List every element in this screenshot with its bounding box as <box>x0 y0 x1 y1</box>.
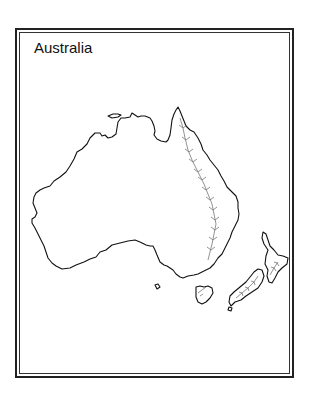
tasmania <box>196 286 213 304</box>
stewart-island <box>228 307 232 311</box>
melville-island <box>108 114 121 118</box>
outline-map <box>0 0 314 400</box>
great-dividing-range <box>179 118 279 298</box>
new-zealand-north-island <box>262 232 288 283</box>
kangaroo-island <box>155 284 160 289</box>
australia-mainland <box>32 107 239 278</box>
